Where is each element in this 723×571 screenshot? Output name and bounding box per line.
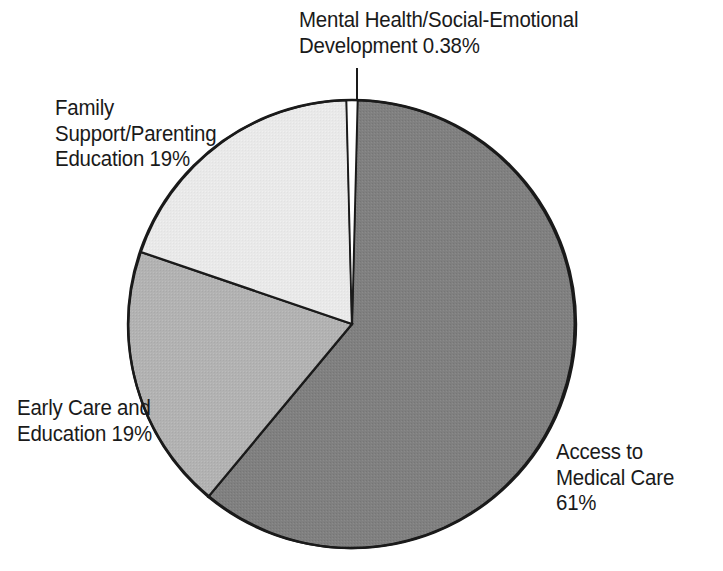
pie-label-family-support: Family Support/Parenting Education 19% [55,96,216,173]
pie-label-access-medical-care: Access to Medical Care 61% [556,440,715,517]
pie-label-mental-health: Mental Health/Social-Emotional Developme… [299,8,578,59]
pie-chart: Mental Health/Social-Emotional Developme… [0,0,723,571]
pie-label-early-care: Early Care and Education 19% [17,396,152,447]
